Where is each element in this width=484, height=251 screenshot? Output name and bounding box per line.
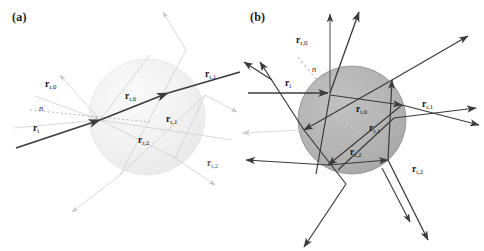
- label-internal-2-b-sub: r,2: [354, 151, 362, 158]
- label-incident-b-sub: i: [289, 82, 291, 89]
- label-transmitted-1-a-sub: t,1: [209, 73, 216, 80]
- label-reflected-0-b-sub: r,0: [300, 39, 308, 46]
- panel-b-diagram: rr,0 n ri rt,0 rr,1 rr,2 rt,1 rt,2: [242, 0, 484, 251]
- transmitted-ray-down-b: [304, 184, 346, 247]
- label-transmitted-2-a-sub: t,2: [211, 162, 219, 169]
- label-normal-b: n: [312, 64, 316, 74]
- panel-a-diagram: rr,0 n ri rt,0 rt,1 rr,1 rr,2 rt,2: [0, 0, 242, 251]
- label-transmitted-2-b-sub: t,2: [416, 168, 424, 175]
- label-normal-a: n: [39, 103, 43, 113]
- label-transmitted-0-b-sub: t,0: [360, 108, 368, 115]
- label-transmitted-1-a: rt,1: [205, 69, 216, 80]
- transmitted-ray-upleft2-b: [244, 62, 272, 80]
- label-transmitted-1-b-sub: t,1: [426, 103, 433, 110]
- label-transmitted-1-b: rt,1: [422, 99, 433, 110]
- transmitted-ray-1-b: [402, 105, 479, 125]
- transmitted-ray-upright-b: [392, 36, 468, 80]
- label-internal-1-a-sub: r,1: [170, 118, 177, 125]
- label-internal-1-b-sub: r,1: [373, 127, 380, 134]
- transmitted-ray-right2-b: [394, 108, 476, 118]
- label-reflected-0-b: rr,0: [296, 35, 308, 46]
- label-transmitted-2-b: rt,2: [412, 164, 424, 175]
- label-incident-a-sub: i: [37, 127, 39, 134]
- label-incident-b: ri: [285, 78, 291, 89]
- panel-a: (a): [0, 0, 242, 251]
- label-transmitted-2-a: rt,2: [207, 158, 219, 169]
- label-transmitted-0-a-sub: t,0: [129, 95, 137, 102]
- label-incident-a: ri: [33, 123, 39, 134]
- label-reflected-0-a: rr,0: [45, 79, 57, 90]
- transmitted-ray-upleft-b: [260, 62, 304, 130]
- panel-b: (b): [242, 0, 484, 251]
- transmitted-ray-left-b: [246, 160, 328, 165]
- figure-root: (a): [0, 0, 484, 251]
- label-internal-2-a-sub: r,2: [142, 139, 150, 146]
- label-reflected-0-a-sub: r,0: [49, 83, 57, 90]
- faint-ray-group-b: [242, 130, 300, 133]
